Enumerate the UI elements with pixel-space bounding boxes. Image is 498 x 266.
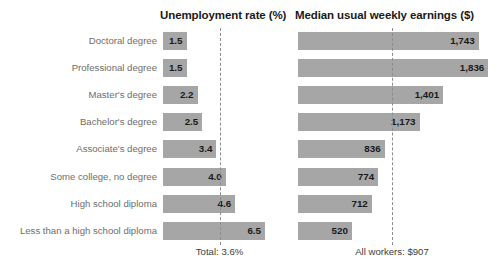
category-label: High school diploma: [0, 195, 157, 213]
bar-value-unemployment: 6.5: [229, 222, 261, 240]
bar-value-earnings: 1,836: [452, 59, 484, 77]
panel-title-unemployment: Unemployment rate (%): [160, 9, 286, 21]
category-label: Professional degree: [0, 59, 157, 77]
bar-value-unemployment: 4.6: [199, 195, 231, 213]
panel-title-earnings: Median usual weekly earnings ($): [295, 9, 474, 21]
bar-value-earnings: 1,173: [384, 113, 416, 131]
category-label: Some college, no degree: [0, 168, 157, 186]
bar-value-unemployment: 2.5: [166, 113, 198, 131]
bar-value-unemployment: 4.0: [190, 168, 222, 186]
category-label: Doctoral degree: [0, 32, 157, 50]
bar-value-unemployment: 3.4: [180, 140, 212, 158]
bar-value-unemployment: 1.5: [151, 32, 183, 50]
bar-value-earnings: 774: [342, 168, 374, 186]
bar-value-earnings: 520: [316, 222, 348, 240]
reference-line-unemployment: [220, 28, 221, 245]
category-label: Less than a high school diploma: [0, 222, 157, 240]
bar-value-unemployment: 2.2: [162, 86, 194, 104]
reference-label-unemployment: Total: 3.6%: [196, 246, 243, 257]
bar-value-earnings: 712: [336, 195, 368, 213]
bar-value-unemployment: 1.5: [151, 59, 183, 77]
category-label: Bachelor's degree: [0, 113, 157, 131]
reference-line-earnings: [392, 28, 393, 245]
bar-value-earnings: 1,401: [407, 86, 439, 104]
dual-panel-bar-chart: Unemployment rate (%) Median usual weekl…: [0, 0, 498, 266]
bar-value-earnings: 836: [349, 140, 381, 158]
reference-label-earnings: All workers: $907: [355, 246, 429, 257]
bar-value-earnings: 1,743: [443, 32, 475, 50]
category-label: Associate's degree: [0, 140, 157, 158]
category-label: Master's degree: [0, 86, 157, 104]
